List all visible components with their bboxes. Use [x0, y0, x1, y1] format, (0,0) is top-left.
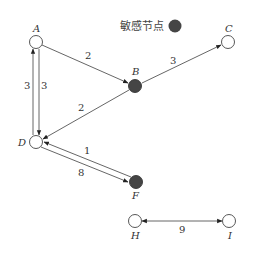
edge-B-D: [43, 90, 129, 139]
edge-weight-D-F: 8: [78, 167, 84, 178]
edge-weight-H-I: 9: [179, 224, 185, 235]
sensitive-node-graph: 敏感节点 2 3 2 3 3 1 8 9 A B C D F: [0, 0, 253, 253]
svg-text:H: H: [130, 230, 140, 241]
svg-text:C: C: [225, 23, 233, 34]
node-B: B: [129, 66, 142, 93]
edge-weight-A-B: 2: [85, 50, 91, 61]
edge-weight-F-D: 1: [84, 145, 90, 156]
node-H: H: [129, 215, 142, 242]
svg-text:I: I: [227, 230, 233, 241]
edge-weight-A-D: 3: [41, 80, 47, 91]
node-A: A: [30, 23, 43, 49]
node-I: I: [223, 215, 236, 242]
svg-text:B: B: [131, 66, 139, 77]
edge-weight-D-A: 3: [24, 80, 30, 91]
svg-text:F: F: [131, 190, 140, 201]
edge-weight-B-D: 2: [78, 102, 84, 113]
svg-text:D: D: [17, 137, 26, 148]
legend-label: 敏感节点: [120, 19, 164, 33]
edge-weight-B-C: 3: [170, 55, 176, 66]
node-D: D: [17, 136, 43, 149]
node-C: C: [222, 23, 235, 49]
node-F: F: [130, 176, 143, 202]
edge-B-C: [142, 45, 221, 83]
svg-text:A: A: [32, 23, 40, 34]
legend-sensitive-node-icon: [169, 20, 182, 33]
